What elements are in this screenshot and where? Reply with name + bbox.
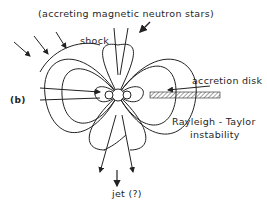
magnetosphere-diagram [0, 0, 267, 206]
shock-label: shock [80, 35, 109, 46]
figure-title: (accreting magnetic neutron stars) [38, 8, 214, 19]
jet-label: jet (?) [112, 188, 142, 199]
neutron-star [112, 89, 124, 101]
accretion-disk-label: accretion disk [192, 75, 262, 86]
rayleigh-taylor-label-line2: instability [190, 129, 240, 140]
accretion-disk [150, 92, 220, 98]
rayleigh-taylor-label-line1: Rayleigh - Taylor [172, 116, 256, 127]
panel-label: (b) [10, 95, 26, 105]
